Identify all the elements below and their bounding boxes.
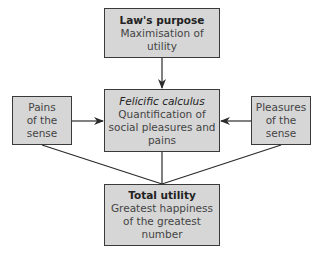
node-title: Felicific calculus <box>119 95 205 108</box>
node-body-line: sense <box>266 127 297 140</box>
node-body-line: of the greatest <box>123 215 201 228</box>
node-body-line: pains <box>148 134 176 147</box>
node-body-line: number <box>142 228 183 241</box>
node-body-line: Greatest happiness <box>111 202 213 215</box>
node-title: Law's purpose <box>120 14 205 27</box>
node-body-line: sense <box>27 127 58 140</box>
node-body-line: Pains <box>28 101 55 114</box>
node-body-line: Quantification of <box>118 108 205 121</box>
node-pains-of-the-sense: Pains of the sense <box>12 96 72 145</box>
node-body-line: social pleasures and <box>109 121 216 134</box>
node-body-line: of the <box>27 114 58 127</box>
node-body-line: Maximisation of <box>120 27 203 40</box>
node-pleasures-of-the-sense: Pleasures of the sense <box>251 96 311 145</box>
node-title: Total utility <box>128 189 196 202</box>
node-body-line: utility <box>147 40 177 53</box>
node-laws-purpose: Law's purpose Maximisation of utility <box>104 8 220 58</box>
node-total-utility: Total utility Greatest happiness of the … <box>104 184 220 246</box>
node-body-line: Pleasures <box>256 101 306 114</box>
node-felicific-calculus: Felicific calculus Quantification of soc… <box>104 89 220 152</box>
node-body-line: of the <box>266 114 297 127</box>
